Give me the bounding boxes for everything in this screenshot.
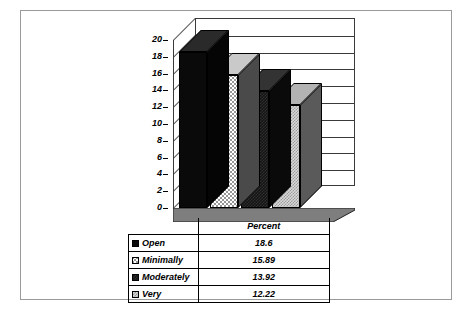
y-axis-tick-mark [163, 124, 168, 125]
bar-side-face [207, 30, 229, 208]
header-percent: Percent [198, 218, 329, 235]
y-axis-tick-label: 18 [152, 52, 162, 61]
y-axis-tick-mark [163, 174, 168, 175]
legend-label: Very [142, 289, 161, 299]
table-row: Minimally15.89 [129, 252, 330, 269]
legend-cell-very: Very [129, 286, 199, 303]
y-axis-tick-label: 16 [152, 69, 162, 78]
y-axis-tick-mark [163, 40, 168, 41]
legend-label: Open [142, 238, 165, 248]
bar-side-face [269, 69, 291, 208]
table-row: Very12.22 [129, 286, 330, 303]
table-row: Open18.6 [129, 235, 330, 252]
y-axis-tick-label: 2 [157, 186, 162, 195]
y-axis-tick-mark [163, 191, 168, 192]
y-axis-tick-label: 6 [157, 153, 162, 162]
data-table: Percent Open18.6Minimally15.89Moderately… [128, 218, 330, 303]
y-axis-tick-label: 4 [157, 169, 162, 178]
y-axis-tick-mark [163, 57, 168, 58]
y-axis-tick-label: 12 [152, 102, 162, 111]
y-axis-tick-mark [163, 141, 168, 142]
value-cell: 12.22 [198, 286, 329, 303]
legend-swatch-icon [132, 257, 139, 264]
table-header-row: Percent [129, 218, 330, 235]
y-axis-tick-mark [163, 90, 168, 91]
bar-open [179, 52, 207, 208]
bar-side-face [238, 53, 260, 208]
value-cell: 13.92 [198, 269, 329, 286]
y-axis-tick-label: 20 [152, 35, 162, 44]
legend-cell-open: Open [129, 235, 199, 252]
table-row: Moderately13.92 [129, 269, 330, 286]
y-axis-tick-mark [163, 107, 168, 108]
header-spacer [129, 218, 199, 235]
y-axis-tick-mark [163, 158, 168, 159]
y-axis-tick-mark [163, 74, 168, 75]
chart-screenshot: 20181614121086420 Percent Open18.6Minima… [0, 0, 474, 311]
legend-cell-moderately: Moderately [129, 269, 199, 286]
legend-swatch-icon [132, 240, 139, 247]
bar-front-face [179, 52, 207, 208]
data-table-body: Percent Open18.6Minimally15.89Moderately… [129, 218, 330, 303]
legend-swatch-icon [132, 291, 139, 298]
bar-group [173, 40, 333, 208]
y-axis-tick-label: 10 [152, 119, 162, 128]
bar-side-face [300, 83, 322, 208]
y-axis-tick-mark [163, 208, 168, 209]
y-axis-tick-label: 8 [157, 136, 162, 145]
value-cell: 15.89 [198, 252, 329, 269]
legend-label: Minimally [142, 255, 183, 265]
legend-swatch-icon [132, 274, 139, 281]
y-axis: 20181614121086420 [128, 18, 168, 210]
y-axis-tick-label: 0 [157, 203, 162, 212]
legend-cell-minimally: Minimally [129, 252, 199, 269]
value-cell: 18.6 [198, 235, 329, 252]
legend-label: Moderately [142, 272, 190, 282]
y-axis-tick-label: 14 [152, 85, 162, 94]
